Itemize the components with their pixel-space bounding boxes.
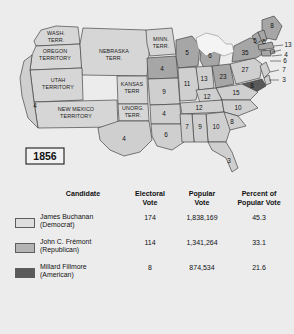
header-popular-vote-line1: Popular [189, 190, 215, 198]
header-electoral-vote-line1: Electoral [135, 190, 165, 198]
ev-missouri: 9 [162, 88, 166, 95]
label-unorganized-territory-line1: UNORG. [122, 105, 144, 111]
candidate-cell-fremont: John C. Frémont (Republican) [40, 236, 126, 261]
ev-north-carolina: 10 [234, 104, 242, 111]
ev-arkansas: 4 [162, 110, 166, 117]
ev-indiana: 13 [200, 75, 208, 82]
ev-texas: 4 [122, 135, 126, 142]
ev-maine: 8 [270, 22, 274, 29]
legend-swatch-buchanan [15, 218, 35, 228]
header-popular-vote-line2: Vote [195, 199, 210, 207]
ev-connecticut: 6 [283, 57, 287, 64]
header-percent-line2: Popular Vote [237, 199, 280, 207]
header-percent-popular-vote: Percent of Popular Vote [230, 190, 288, 211]
ev-massachusetts: 13 [284, 41, 292, 48]
legend-swatch-fillmore [15, 268, 35, 278]
ev-iowa: 4 [160, 65, 164, 72]
year-label: 1856 [33, 150, 57, 162]
label-oregon-territory-line2: TERRITORY [39, 55, 71, 61]
header-electoral-vote-line2: Vote [143, 199, 158, 207]
legend-swatch-cell-fillmore [10, 261, 40, 286]
candidate-cell-buchanan: James Buchanan (Democrat) [40, 211, 126, 236]
candidate-name-fremont: John C. Frémont [40, 238, 91, 245]
label-nebraska-territory-line1: NEBRASKA [99, 48, 129, 54]
candidate-party-buchanan: (Democrat) [40, 221, 126, 229]
ev-georgia: 10 [212, 123, 220, 130]
ev-illinois: 11 [184, 80, 191, 87]
label-unorganized-territory-line2: TERR. [125, 112, 142, 118]
ev-florida: 3 [227, 157, 231, 164]
ev-tennessee: 12 [195, 104, 203, 111]
ev-kentucky: 12 [203, 93, 211, 100]
ev-new-jersey: 7 [282, 66, 286, 73]
label-minnesota-territory-line2: TERR. [153, 43, 170, 49]
ev-louisiana: 6 [164, 131, 168, 138]
header-electoral-vote: Electoral Vote [126, 190, 174, 211]
election-map-figure: .st{stroke:#3a3a3a;stroke-width:.65;stro… [0, 0, 294, 334]
popular-vote-fillmore: 874,534 [174, 261, 230, 286]
ev-california: 4 [33, 102, 37, 109]
candidate-name-fillmore: Millard Fillmore [40, 263, 87, 270]
table-header-row: Candidate Electoral Vote Popular Vote Pe… [10, 190, 288, 211]
legend-swatch-cell-buchanan [10, 211, 40, 236]
results-table-area: Candidate Electoral Vote Popular Vote Pe… [0, 186, 294, 334]
legend-swatch-fremont [15, 243, 35, 253]
label-washington-territory-line2: TERR. [48, 37, 65, 43]
ev-wisconsin: 5 [185, 49, 189, 56]
popular-vote-fremont: 1,341,264 [174, 236, 230, 261]
label-oregon-territory-line1: OREGON [43, 48, 68, 54]
label-kansas-territory-line1: KANSAS [121, 81, 144, 87]
ev-mississippi: 7 [185, 123, 189, 130]
electoral-vote-fremont: 114 [126, 236, 174, 261]
percent-popular-vote-fremont: 33.1 [230, 236, 288, 261]
candidate-party-fillmore: (American) [40, 271, 126, 279]
label-kansas-territory-line2: TERR [124, 88, 139, 94]
header-candidate: Candidate [40, 190, 126, 211]
table-row: Millard Fillmore (American) 8 874,534 21… [10, 261, 288, 286]
ev-michigan: 6 [208, 52, 212, 59]
label-utah-territory-line1: UTAH [51, 77, 66, 83]
ev-new-york: 35 [241, 49, 249, 56]
label-new-mexico-territory-line1: NEW MEXICO [58, 106, 94, 112]
popular-vote-buchanan: 1,838,169 [174, 211, 230, 236]
label-nebraska-territory-line2: TERR. [106, 55, 123, 61]
legend-swatch-cell-fremont [10, 236, 40, 261]
header-swatch [10, 190, 40, 211]
ev-alabama: 9 [198, 123, 202, 130]
label-washington-territory-line1: WASH. [47, 30, 65, 36]
ev-virginia: 15 [232, 89, 240, 96]
candidate-party-fremont: (Republican) [40, 246, 126, 254]
label-utah-territory-line2: TERRITORY [42, 84, 74, 90]
ev-delaware: 3 [282, 76, 286, 83]
electoral-vote-fillmore: 8 [126, 261, 174, 286]
state-minnesota-territory [146, 28, 176, 56]
electoral-vote-buchanan: 174 [126, 211, 174, 236]
ev-south-carolina: 8 [230, 118, 234, 125]
state-connecticut [261, 50, 271, 56]
ev-ohio: 23 [219, 73, 227, 80]
label-new-mexico-territory-line2: TERRITORY [60, 113, 92, 119]
percent-popular-vote-buchanan: 45.3 [230, 211, 288, 236]
year-badge: 1856 [26, 148, 64, 164]
table-body: James Buchanan (Democrat) 174 1,838,169 … [10, 211, 288, 286]
header-popular-vote: Popular Vote [174, 190, 230, 211]
candidate-cell-fillmore: Millard Fillmore (American) [40, 261, 126, 286]
candidate-name-buchanan: James Buchanan [40, 213, 93, 220]
ev-pennsylvania: 27 [241, 66, 249, 73]
table-row: James Buchanan (Democrat) 174 1,838,169 … [10, 211, 288, 236]
ev-vermont: 5 [253, 37, 257, 44]
table-row: John C. Frémont (Republican) 114 1,341,2… [10, 236, 288, 261]
ev-new-hampshire: 5 [262, 38, 266, 45]
table-header: Candidate Electoral Vote Popular Vote Pe… [10, 190, 288, 211]
electoral-map: .st{stroke:#3a3a3a;stroke-width:.65;stro… [0, 0, 294, 186]
percent-popular-vote-fillmore: 21.6 [230, 261, 288, 286]
ev-maryland: 8 [250, 82, 254, 89]
label-minnesota-territory-line1: MINN. [153, 36, 169, 42]
election-results-table: Candidate Electoral Vote Popular Vote Pe… [10, 190, 288, 286]
header-percent-line1: Percent of [242, 190, 277, 198]
